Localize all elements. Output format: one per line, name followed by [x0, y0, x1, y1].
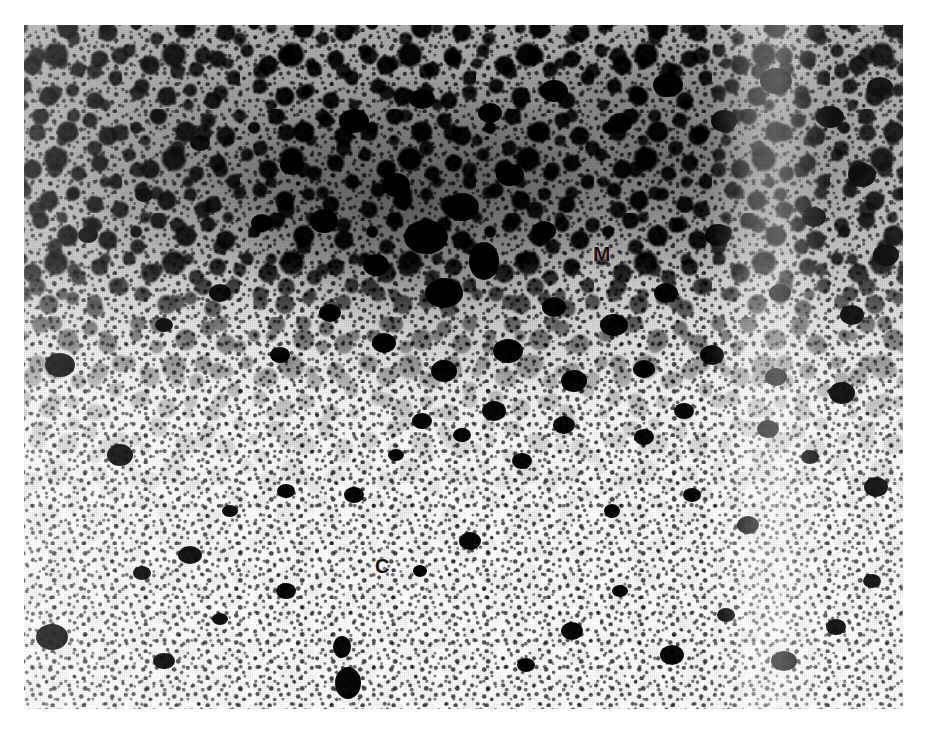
halftone-grain-overlay [24, 25, 903, 709]
region-label-medulla: M [593, 243, 611, 264]
micrograph-page: M C [0, 0, 925, 729]
micrograph-plate [24, 25, 903, 709]
region-label-cortex: C [375, 556, 389, 576]
